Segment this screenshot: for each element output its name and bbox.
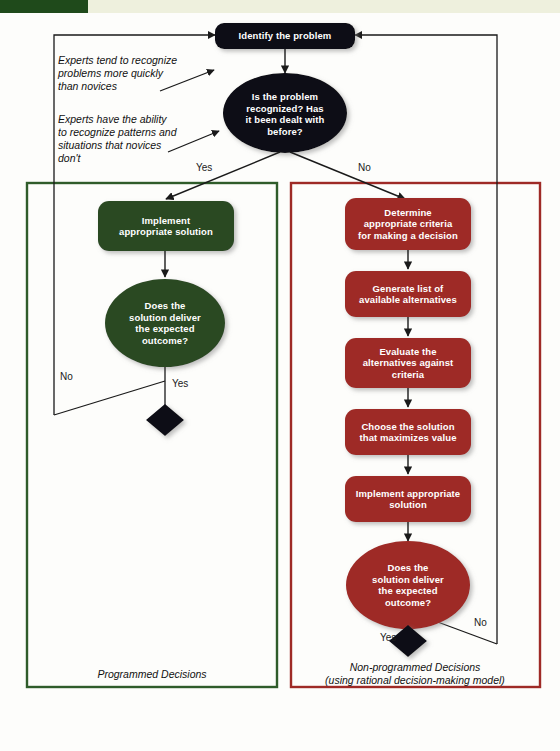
annot1-line-4: don't [58,152,218,165]
caption-right-line-2: (using rational decision-making model) [300,674,530,687]
node-choose-solution [345,409,471,455]
caption-right-line-1: Non-programmed Decisions [300,661,530,674]
annot0-line-3: than novices [58,80,208,93]
edge-label-red-no: No [474,617,487,628]
edge-label-red-yes: Yes [380,632,396,643]
node-implement-appropriate-solution-red [345,476,471,522]
flowchart-page: Identify the problem Is the problem reco… [0,0,560,751]
annot1-line-3: situations that novices [58,139,218,152]
annotation-experts-recognize-quickly: Experts tend to recognize problems more … [58,54,208,93]
node-does-solution-deliver-red [346,541,470,629]
node-generate-alternatives [345,271,471,317]
annot0-line-2: problems more quickly [58,67,208,80]
node-does-solution-deliver-green [105,279,225,367]
annot1-line-1: Experts have the ability [58,113,218,126]
annot1-line-2: to recognize patterns and [58,126,218,139]
programmed-decisions-frame [27,183,277,687]
terminator-green-end-diamond [146,404,184,436]
caption-left-line-1: Programmed Decisions [37,668,267,681]
edge-label-green-yes: Yes [172,378,188,389]
node-is-problem-recognized [223,73,347,153]
node-identify-the-problem [215,23,355,49]
edge-green-no-riser [54,381,165,415]
edge-label-green-no: No [60,371,73,382]
caption-programmed-decisions: Programmed Decisions [37,668,267,681]
edge-label-top-no: No [358,162,371,173]
caption-non-programmed-decisions: Non-programmed Decisions (using rational… [300,661,530,687]
annot0-line-1: Experts tend to recognize [58,54,208,67]
node-evaluate-alternatives [345,338,471,388]
annotation-experts-recognize-patterns: Experts have the ability to recognize pa… [58,113,218,165]
node-determine-criteria [345,198,471,250]
node-implement-appropriate-solution-green [98,201,234,251]
edge-decision-no [290,152,405,199]
